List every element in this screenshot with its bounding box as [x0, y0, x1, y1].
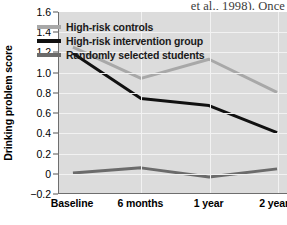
legend-item: High-risk intervention group	[37, 34, 227, 47]
legend-item: Randomly selected students	[37, 48, 227, 61]
vertical-gridline	[278, 12, 279, 193]
y-axis-tick-label: 0.8	[36, 87, 51, 99]
y-axis-tick-label: −0.2	[30, 188, 51, 200]
y-axis-title: Drinking problem score	[0, 12, 16, 194]
horizontal-gridline	[59, 113, 287, 114]
legend-color-swatch	[37, 25, 61, 29]
legend-color-swatch	[37, 39, 61, 43]
line-chart-figure: Drinking problem score 1.61.41.21.00.80.…	[0, 12, 287, 225]
chart-legend: High-risk controlsHigh-risk intervention…	[37, 20, 227, 62]
legend-item: High-risk controls	[37, 20, 227, 33]
page-text-fragment-label: et al., 1998). Once	[191, 0, 285, 10]
legend-item-label: High-risk intervention group	[66, 35, 203, 47]
x-axis-tick-labels: Baseline6 months1 year2 years	[58, 197, 287, 215]
y-axis-tick-label: 0.2	[36, 148, 51, 160]
y-axis-tick-label: 0.6	[36, 107, 51, 119]
y-axis-title-label: Drinking problem score	[2, 45, 14, 161]
x-axis-tick-label: Baseline	[51, 197, 93, 209]
series-line	[73, 168, 277, 177]
x-axis-tick-label: 2 years	[259, 197, 287, 209]
y-axis-tick-label: 0.4	[36, 127, 51, 139]
x-axis-tick-label: 6 months	[117, 197, 163, 209]
x-axis-tick-label: 1 year	[194, 197, 224, 209]
legend-color-swatch	[37, 53, 61, 57]
legend-item-label: High-risk controls	[66, 21, 153, 33]
horizontal-gridline	[59, 133, 287, 134]
horizontal-gridline	[59, 174, 287, 175]
horizontal-gridline	[59, 73, 287, 74]
y-axis-tick-label: 1.6	[36, 6, 51, 18]
horizontal-gridline	[59, 154, 287, 155]
horizontal-gridline	[59, 93, 287, 94]
legend-item-label: Randomly selected students	[66, 49, 204, 61]
y-axis-tick-label: 0	[45, 168, 51, 180]
y-axis-tick-label: 1.0	[36, 67, 51, 79]
